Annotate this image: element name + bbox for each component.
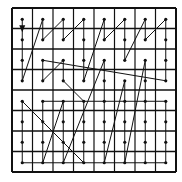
- grid-lines: [12, 8, 176, 172]
- scan-pattern-diagram: [0, 0, 182, 182]
